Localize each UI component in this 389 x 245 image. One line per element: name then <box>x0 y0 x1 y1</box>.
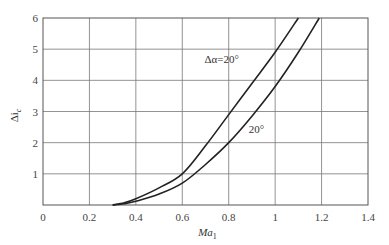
y-tick-label: 2 <box>33 137 39 149</box>
y-tick-label: 3 <box>33 106 39 118</box>
series-annotation: Δα=20° <box>205 53 239 65</box>
chart: 00.20.40.60.811.21.4 123456 Δα=20°20° Ma… <box>0 0 389 245</box>
y-tick-label: 6 <box>33 12 39 24</box>
x-tick-label: 1.4 <box>361 211 375 223</box>
x-tick-label: 0.2 <box>83 211 97 223</box>
x-axis-label-sub: 1 <box>213 232 217 241</box>
x-tick-label: 0 <box>40 211 46 223</box>
x-tick-label: 0.8 <box>222 211 236 223</box>
x-tick-label: 0.4 <box>129 211 143 223</box>
x-tick-label: 1.2 <box>315 211 329 223</box>
y-axis-label: Δic <box>8 108 23 122</box>
y-axis-label-sub: c <box>14 108 23 112</box>
x-tick-label: 0.6 <box>175 211 189 223</box>
annotations: Δα=20°20° <box>205 53 265 135</box>
x-axis-label: Ma1 <box>197 226 217 241</box>
series-annotation: 20° <box>249 123 264 135</box>
x-tick-labels: 00.20.40.60.811.21.4 <box>40 211 375 223</box>
y-tick-label: 1 <box>33 168 39 180</box>
y-tick-labels: 123456 <box>33 12 39 180</box>
y-tick-label: 5 <box>33 43 39 55</box>
y-tick-label: 4 <box>33 74 39 86</box>
grid-lines <box>43 18 368 205</box>
x-tick-label: 1 <box>272 211 278 223</box>
